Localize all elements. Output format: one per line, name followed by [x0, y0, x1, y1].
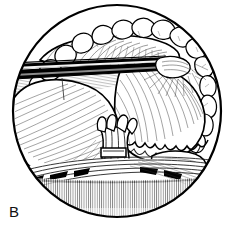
panel-label: B — [9, 204, 19, 219]
figure-container — [0, 0, 235, 233]
surgical-illustration — [0, 0, 235, 233]
